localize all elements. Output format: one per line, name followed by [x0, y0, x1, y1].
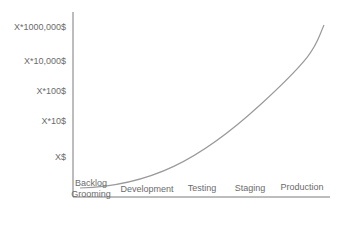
- x-tick-label: Development: [112, 184, 182, 195]
- y-tick-label: X*10,000$: [0, 56, 66, 66]
- x-tick-label: Backlog Grooming: [66, 178, 116, 200]
- x-tick-label-line1: Backlog: [66, 178, 116, 189]
- x-tick-label: Staging: [228, 183, 272, 194]
- y-tick-label: X*100$: [0, 86, 66, 96]
- y-tick-label: X*1000,000$: [0, 22, 66, 32]
- y-tick-label: X*10$: [0, 116, 66, 126]
- y-tick-label: X$: [0, 152, 66, 162]
- cost-curve: [80, 25, 324, 188]
- x-tick-label: Testing: [180, 183, 224, 194]
- x-tick-label-line2: Grooming: [66, 189, 116, 200]
- x-tick-label: Production: [272, 182, 332, 193]
